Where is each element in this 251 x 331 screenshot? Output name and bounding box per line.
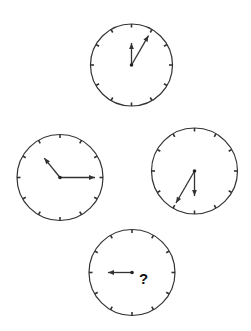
hour-tick bbox=[111, 29, 113, 32]
clock-pivot bbox=[58, 176, 62, 180]
clock-pivot bbox=[130, 271, 134, 275]
minute-hand-arrowhead bbox=[176, 197, 181, 203]
hour-tick bbox=[157, 191, 160, 193]
hour-tick bbox=[23, 156, 26, 158]
hour-tick bbox=[152, 307, 154, 310]
hour-tick bbox=[229, 150, 232, 152]
hour-tick bbox=[96, 45, 99, 47]
hour-tick bbox=[94, 197, 97, 199]
hour-hand-arrowhead bbox=[192, 190, 197, 196]
hour-tick bbox=[80, 212, 82, 215]
hour-hand-arrowhead bbox=[108, 270, 114, 275]
hour-tick bbox=[80, 140, 82, 143]
clock-left bbox=[17, 135, 103, 221]
hour-tick bbox=[157, 150, 160, 152]
hour-tick bbox=[95, 292, 98, 294]
hour-tick bbox=[23, 197, 26, 199]
hour-tick bbox=[214, 134, 216, 137]
hour-tick bbox=[164, 84, 167, 86]
hour-tick bbox=[94, 156, 97, 158]
clock-bottom bbox=[89, 230, 175, 316]
hour-tick bbox=[214, 205, 216, 208]
hour-tick bbox=[152, 235, 154, 238]
unknown-answer-mark: ? bbox=[139, 270, 148, 287]
minute-hand-arrowhead bbox=[143, 36, 148, 42]
clock-top bbox=[91, 24, 173, 106]
hour-tick bbox=[229, 191, 232, 193]
hour-hand-arrowhead bbox=[129, 43, 134, 49]
hour-tick bbox=[39, 212, 41, 215]
hour-tick bbox=[95, 251, 98, 253]
hour-tick bbox=[173, 205, 175, 208]
clock-pivot bbox=[130, 63, 134, 67]
hour-tick bbox=[164, 45, 167, 47]
clock-puzzle: ? bbox=[0, 0, 251, 331]
hour-tick bbox=[166, 251, 169, 253]
hour-tick bbox=[173, 134, 175, 137]
hour-tick bbox=[111, 97, 113, 100]
hour-tick bbox=[150, 29, 152, 32]
clock-right bbox=[152, 128, 238, 214]
hour-tick bbox=[111, 235, 113, 238]
minute-hand-arrowhead bbox=[89, 175, 95, 180]
hour-tick bbox=[96, 84, 99, 86]
hour-tick bbox=[150, 97, 152, 100]
clock-pivot bbox=[193, 169, 197, 173]
hour-tick bbox=[166, 292, 169, 294]
hour-tick bbox=[39, 140, 41, 143]
hour-tick bbox=[111, 307, 113, 310]
